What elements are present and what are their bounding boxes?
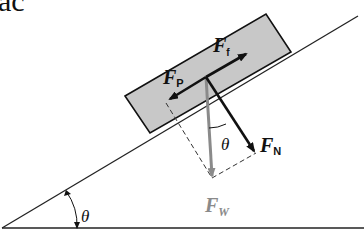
inclined-plane-diagram: Ff FP FN FW θ θ xyxy=(0,0,364,245)
theta-label-base: θ xyxy=(81,207,89,226)
normal-force-arrow xyxy=(206,77,254,151)
dashed-component-line xyxy=(212,153,256,178)
weight-force-label: FW xyxy=(204,194,230,219)
incline-line xyxy=(2,16,358,228)
angle-arc-force xyxy=(209,124,226,128)
theta-label-force: θ xyxy=(221,135,229,154)
normal-force-label: FN xyxy=(259,134,281,157)
